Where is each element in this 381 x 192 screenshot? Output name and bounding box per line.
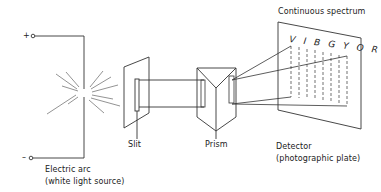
spectrum-bands	[291, 46, 347, 106]
slit-plate	[124, 57, 149, 139]
negative-terminal: –	[22, 154, 26, 162]
positive-terminal: +	[23, 32, 30, 40]
slit-label: Slit	[128, 140, 141, 150]
light-rays-icon	[47, 71, 120, 114]
source-label-line1: Electric arc	[45, 165, 91, 175]
prism-label: Prism	[205, 140, 228, 150]
source-label-line2: (white light source)	[45, 177, 125, 187]
prism	[197, 68, 236, 139]
detector-label-line2: (photographic plate)	[276, 154, 360, 164]
spectrum-title: Continuous spectrum	[278, 7, 365, 17]
electric-arc	[29, 34, 120, 160]
dispersed-rays	[232, 46, 347, 106]
detector-label-line1: Detector	[276, 142, 312, 152]
